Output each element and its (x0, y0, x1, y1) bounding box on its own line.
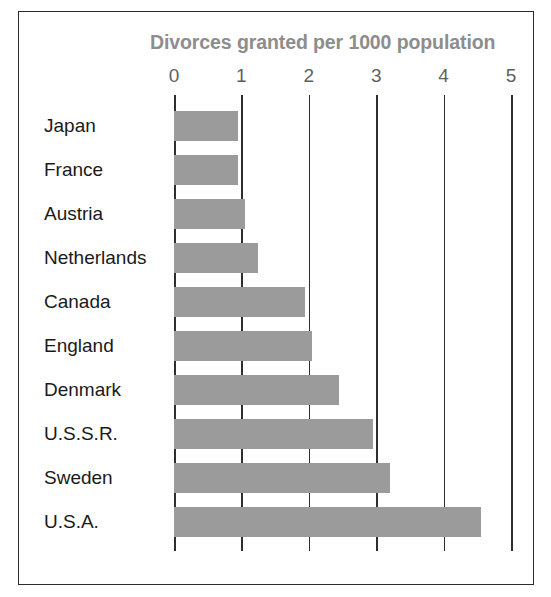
x-tick-label-3: 3 (371, 65, 382, 87)
gridline-5 (511, 95, 513, 551)
x-tick-label-2: 2 (304, 65, 315, 87)
bar-u-s-a (174, 507, 481, 537)
category-label-england: England (44, 335, 194, 357)
x-tick-label-5: 5 (506, 65, 517, 87)
category-label-u-s-s-r: U.S.S.R. (44, 423, 194, 445)
plot-area: 012345 (174, 95, 511, 551)
category-label-canada: Canada (44, 291, 194, 313)
category-label-austria: Austria (44, 203, 194, 225)
bar-england (174, 331, 312, 361)
gridline-4 (444, 95, 446, 551)
category-label-u-s-a: U.S.A. (44, 511, 194, 533)
category-label-netherlands: Netherlands (44, 247, 194, 269)
chart-title: Divorces granted per 1000 population (150, 31, 540, 54)
category-label-japan: Japan (44, 115, 194, 137)
x-tick-label-0: 0 (169, 65, 180, 87)
x-tick-label-1: 1 (236, 65, 247, 87)
bar-u-s-s-r (174, 419, 373, 449)
x-tick-label-4: 4 (438, 65, 449, 87)
bar-sweden (174, 463, 390, 493)
category-label-denmark: Denmark (44, 379, 194, 401)
bar-denmark (174, 375, 339, 405)
chart-figure: Divorces granted per 1000 population 012… (0, 0, 551, 597)
category-label-sweden: Sweden (44, 467, 194, 489)
category-label-france: France (44, 159, 194, 181)
